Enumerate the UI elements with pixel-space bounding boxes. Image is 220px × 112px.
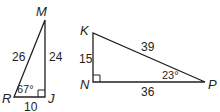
angle-label-p: 23° — [162, 69, 179, 81]
side-label-kp: 39 — [141, 40, 155, 54]
vertex-label-k: K — [80, 23, 90, 38]
right-angle-marker-n — [93, 75, 100, 82]
side-label-np: 36 — [141, 85, 155, 99]
triangle-knp: K N P 39 15 36 23° — [79, 23, 217, 99]
vertex-label-n: N — [80, 77, 90, 92]
vertex-label-p: P — [208, 77, 217, 92]
vertex-label-m: M — [36, 4, 47, 19]
side-label-rm: 26 — [12, 50, 26, 64]
side-label-kn: 15 — [79, 52, 93, 66]
angle-label-r: 67° — [17, 83, 34, 95]
diagram-canvas: M R J 26 24 10 67° K N P 39 15 36 23° — [0, 0, 220, 112]
right-angle-marker-j — [38, 90, 45, 97]
triangle-rjm: M R J 26 24 10 67° — [2, 4, 63, 112]
vertex-label-j: J — [47, 91, 55, 106]
side-label-jm: 24 — [49, 50, 63, 64]
side-label-rj: 10 — [24, 100, 38, 112]
vertex-label-r: R — [2, 91, 11, 106]
